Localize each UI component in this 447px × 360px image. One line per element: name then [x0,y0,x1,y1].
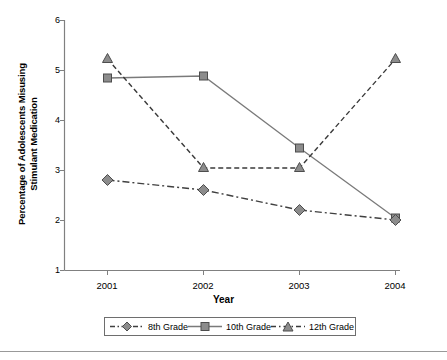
legend-swatch-8th-grade [110,320,144,333]
chart-legend: 8th Grade 10th Grade 12th Grade [104,317,356,336]
chart-figure: Percentage of Adolescents Misusing Stimu… [0,0,447,360]
x-tick-label-2004: 2004 [375,280,415,291]
legend-item-12th-grade: 12th Grade [271,320,354,333]
legend-label-12th-grade: 12th Grade [309,322,354,332]
legend-swatch-10th-grade [188,320,222,333]
x-axis-title: Year [0,294,447,305]
legend-label-8th-grade: 8th Grade [148,322,188,332]
x-tick-label-2001: 2001 [87,280,127,291]
x-axis-tick-labels: 2001 2002 2003 2004 [0,0,447,360]
legend-swatch-12th-grade [271,320,305,333]
legend-item-10th-grade: 10th Grade [188,320,271,333]
bottom-divider [0,351,447,352]
x-tick-label-2003: 2003 [279,280,319,291]
legend-label-10th-grade: 10th Grade [226,322,271,332]
legend-item-8th-grade: 8th Grade [110,320,188,333]
x-tick-label-2002: 2002 [183,280,223,291]
